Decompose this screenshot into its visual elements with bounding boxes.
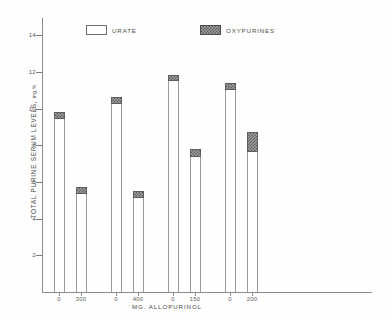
x-tick-label-0-g4: 0 bbox=[218, 297, 242, 303]
legend-item-oxypurines[interactable]: OXYPURINES bbox=[200, 25, 275, 35]
y-tick-4 bbox=[36, 219, 43, 220]
y-tick-label-12: 12 bbox=[14, 69, 36, 75]
x-axis-title: MG. ALLOPURINOL bbox=[42, 303, 292, 310]
y-axis-unit-text: mg.% bbox=[31, 85, 37, 99]
y-tick-label-4: 4 bbox=[14, 216, 36, 222]
legend-label-urate: URATE bbox=[112, 27, 137, 34]
y-axis-title-text: TOTAL PURINE SERUM LEVELS, bbox=[30, 101, 37, 219]
x-tick-label-0-g1: 0 bbox=[47, 297, 71, 303]
bar-urate-g4-control bbox=[225, 89, 236, 292]
y-tick-label-10: 10 bbox=[14, 106, 36, 112]
bar-oxypurines-g1-dose bbox=[76, 187, 87, 194]
x-tick-label-0-g2: 0 bbox=[104, 297, 128, 303]
x-tick-label-300: 300 bbox=[69, 297, 93, 303]
bar-urate-g1-dose bbox=[76, 193, 87, 292]
x-tick-label-0-g3: 0 bbox=[161, 297, 185, 303]
x-tick-label-200: 200 bbox=[240, 297, 264, 303]
y-tick-2 bbox=[36, 255, 43, 256]
legend-label-oxypurines: OXYPURINES bbox=[226, 27, 275, 34]
y-axis-line bbox=[42, 18, 43, 293]
bar-oxypurines-g4-control bbox=[225, 83, 236, 90]
purine-serum-levels-chart: TOTAL PURINE SERUM LEVELS, mg.% 2 4 6 8 … bbox=[0, 0, 388, 320]
bar-oxypurines-g3-control bbox=[168, 75, 179, 81]
bar-oxypurines-g3-dose bbox=[190, 149, 201, 157]
y-tick-6 bbox=[36, 182, 43, 183]
bar-urate-g3-dose bbox=[190, 156, 201, 292]
hatched-box-swatch-icon bbox=[200, 25, 221, 35]
bar-urate-g4-dose bbox=[247, 151, 258, 292]
bar-urate-g2-dose bbox=[133, 197, 144, 292]
y-tick-12 bbox=[36, 72, 43, 73]
x-tick-label-150: 150 bbox=[183, 297, 207, 303]
bar-oxypurines-g1-control bbox=[54, 112, 65, 119]
x-axis-line bbox=[42, 292, 372, 293]
y-tick-label-14: 14 bbox=[14, 32, 36, 38]
y-tick-label-6: 6 bbox=[14, 179, 36, 185]
y-tick-14 bbox=[36, 35, 43, 36]
bar-urate-g3-control bbox=[168, 80, 179, 292]
bar-oxypurines-g2-control bbox=[111, 97, 122, 104]
bar-oxypurines-g2-dose bbox=[133, 191, 144, 198]
legend-item-urate[interactable]: URATE bbox=[86, 25, 137, 35]
bar-oxypurines-g4-dose bbox=[247, 132, 258, 152]
bar-urate-g2-control bbox=[111, 103, 122, 292]
bar-urate-g1-control bbox=[54, 118, 65, 292]
y-tick-label-8: 8 bbox=[14, 142, 36, 148]
y-tick-label-2: 2 bbox=[14, 252, 36, 258]
open-box-swatch-icon bbox=[86, 25, 107, 35]
y-tick-8 bbox=[36, 145, 43, 146]
y-tick-10 bbox=[36, 109, 43, 110]
x-tick-label-400: 400 bbox=[126, 297, 150, 303]
